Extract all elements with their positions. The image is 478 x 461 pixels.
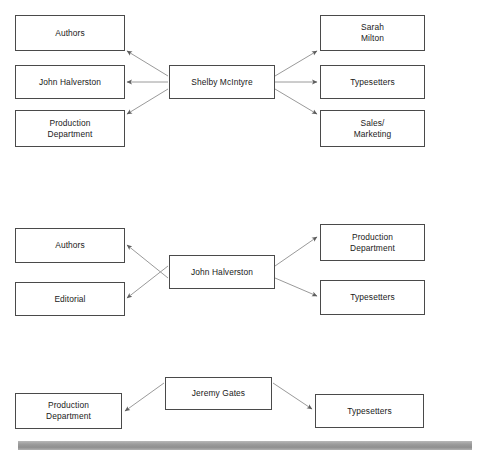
connector-2-authors [127,245,168,278]
node-diagram2-right-production-department[interactable]: Production Department [320,224,425,261]
connector-1-production-dept [127,89,168,114]
node-diagram1-left-authors[interactable]: Authors [15,15,125,51]
node-label: Jeremy Gates [190,388,247,399]
node-diagram3-left-production-department[interactable]: Production Department [15,393,122,429]
node-label: John Halverston [189,267,255,278]
node-diagram2-center-john-halverston[interactable]: John Halverston [169,255,275,289]
node-label: John Halverston [37,77,103,88]
node-diagram1-right-sales-marketing[interactable]: Sales/ Marketing [320,110,425,147]
node-diagram2-left-editorial[interactable]: Editorial [15,282,125,316]
node-label: Authors [53,240,87,251]
node-label: Editorial [52,294,87,305]
node-diagram3-right-typesetters[interactable]: Typesetters [315,394,424,428]
connector-2-production-dept [275,237,317,266]
connector-1-authors [127,51,168,76]
node-diagram1-center-shelby-mcintyre[interactable]: Shelby McIntyre [169,65,275,99]
node-label: Production Department [44,400,93,422]
node-label: Shelby McIntyre [189,77,255,88]
node-label: Production Department [46,118,95,140]
node-label: Typesetters [345,406,393,417]
node-diagram1-right-sarah-milton[interactable]: Sarah Milton [320,15,425,51]
node-diagram2-right-typesetters[interactable]: Typesetters [320,280,425,315]
connector-2-typesetters [275,278,317,296]
node-diagram1-left-production-department[interactable]: Production Department [15,110,125,147]
node-diagram1-left-john-halverston[interactable]: John Halverston [15,65,125,99]
node-label: Authors [53,28,87,39]
connector-3-typesetters [273,383,312,409]
node-diagram2-left-authors[interactable]: Authors [15,228,125,263]
node-label: Production Department [348,232,397,254]
connector-1-sales-marketing [275,89,317,114]
connector-2-editorial [127,266,168,298]
connector-1-sarah-milton [275,51,317,76]
node-diagram1-right-typesetters[interactable]: Typesetters [320,65,425,99]
footer-divider-bar [18,441,472,450]
node-label: Sales/ Marketing [352,118,394,140]
node-label: Sarah Milton [359,22,386,44]
node-label: Typesetters [348,292,396,303]
node-label: Typesetters [348,77,396,88]
diagram-root: Authors John Halverston Production Depar… [0,0,478,461]
node-diagram3-center-jeremy-gates[interactable]: Jeremy Gates [165,377,272,410]
connector-3-production-dept [125,383,164,411]
